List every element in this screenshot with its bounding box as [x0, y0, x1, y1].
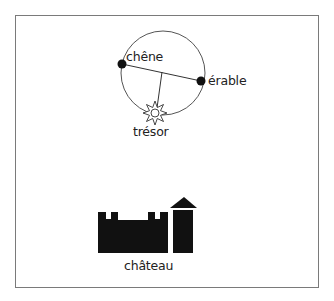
castle-icon: [98, 197, 197, 253]
treasure-map-diagram: [0, 0, 334, 301]
treasure-label: trésor: [133, 124, 169, 139]
castle-label: château: [124, 258, 173, 273]
treasure-star-icon: [143, 101, 167, 125]
perpendicular-line: [157, 72, 162, 108]
maple-tree-dot: [197, 77, 206, 86]
oak-label: chêne: [126, 49, 163, 64]
maple-label: érable: [208, 73, 246, 88]
